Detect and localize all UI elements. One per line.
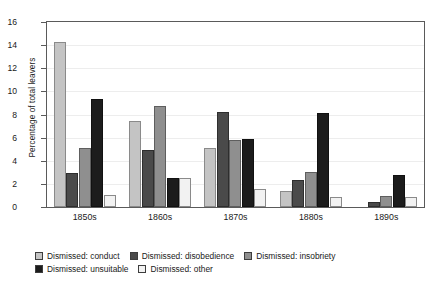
legend-label: Dismissed: conduct [47, 251, 120, 261]
x-axis-tick-label: 1860s [125, 212, 195, 222]
bar-disobedience-1850s [66, 173, 78, 207]
bar-other-1890s [405, 197, 417, 207]
legend-row: Dismissed: unsuitableDismissed: other [35, 262, 435, 275]
x-axis-tick-label: 1890s [351, 212, 421, 222]
legend-row: Dismissed: conductDismissed: disobedienc… [35, 249, 435, 262]
bar-insobriety-1890s [380, 196, 392, 207]
y-axis-tick-mark [41, 22, 46, 23]
y-axis-tick-label: 8 [0, 110, 17, 120]
bar-conduct-1850s [54, 42, 66, 207]
bar-conduct-1860s [129, 121, 141, 207]
y-axis-tick-label: 14 [0, 40, 17, 50]
y-axis-tick-label: 10 [0, 86, 17, 96]
y-axis-tick-label: 2 [0, 179, 17, 189]
bar-insobriety-1860s [154, 106, 166, 207]
bar-conduct-1880s [280, 191, 292, 207]
legend-label: Dismissed: disobedience [142, 251, 235, 261]
legend-swatch-icon [35, 252, 43, 260]
bar-group [47, 22, 122, 207]
legend-item-unsuitable: Dismissed: unsuitable [35, 264, 128, 274]
y-axis-tick-mark [41, 91, 46, 92]
bar-other-1870s [254, 189, 266, 208]
legend: Dismissed: conductDismissed: disobedienc… [35, 249, 435, 275]
bar-conduct-1870s [204, 148, 216, 207]
bar-unsuitable-1890s [393, 175, 405, 207]
bar-insobriety-1880s [305, 172, 317, 207]
bar-disobedience-1870s [217, 112, 229, 207]
bar-insobriety-1870s [229, 140, 241, 207]
y-axis-tick-mark [41, 45, 46, 46]
bar-unsuitable-1870s [242, 139, 254, 207]
bar-insobriety-1850s [79, 148, 91, 207]
bar-group [273, 22, 348, 207]
y-axis-tick-label: 0 [0, 202, 17, 212]
bar-other-1850s [104, 195, 116, 207]
x-axis-tick-label: 1870s [201, 212, 271, 222]
legend-item-insobriety: Dismissed: insobriety [244, 251, 335, 261]
bar-unsuitable-1850s [91, 99, 103, 207]
bar-unsuitable-1860s [167, 178, 179, 207]
bar-disobedience-1880s [292, 180, 304, 207]
bar-group [198, 22, 273, 207]
legend-label: Dismissed: other [150, 264, 212, 274]
y-axis-tick-label: 4 [0, 156, 17, 166]
y-axis-tick-label: 6 [0, 133, 17, 143]
y-axis-tick-mark [41, 138, 46, 139]
bar-group [122, 22, 197, 207]
y-axis-tick-label: 12 [0, 63, 17, 73]
legend-item-conduct: Dismissed: conduct [35, 251, 120, 261]
bar-disobedience-1860s [142, 150, 154, 207]
x-axis-tick-label: 1850s [50, 212, 120, 222]
bar-chart: Percentage of total leavers 024681012141… [0, 0, 446, 287]
bars-layer [47, 22, 424, 207]
bar-group [349, 22, 424, 207]
legend-swatch-icon [35, 265, 43, 273]
y-axis-tick-label: 16 [0, 17, 17, 27]
y-axis-tick-mark [41, 161, 46, 162]
legend-swatch-icon [138, 265, 146, 273]
legend-item-other: Dismissed: other [138, 264, 212, 274]
y-axis-tick-mark [41, 184, 46, 185]
y-axis-tick-mark [41, 115, 46, 116]
legend-swatch-icon [130, 252, 138, 260]
y-axis-title: Percentage of total leavers [28, 13, 37, 203]
legend-label: Dismissed: unsuitable [47, 264, 128, 274]
legend-swatch-icon [244, 252, 252, 260]
legend-item-disobedience: Dismissed: disobedience [130, 251, 235, 261]
x-axis-tick-label: 1880s [276, 212, 346, 222]
y-axis-tick-mark [41, 207, 46, 208]
y-axis-tick-mark [41, 68, 46, 69]
legend-label: Dismissed: insobriety [256, 251, 335, 261]
bar-other-1880s [330, 197, 342, 207]
bar-other-1860s [179, 178, 191, 207]
bar-disobedience-1890s [368, 202, 380, 207]
bar-unsuitable-1880s [317, 113, 329, 207]
